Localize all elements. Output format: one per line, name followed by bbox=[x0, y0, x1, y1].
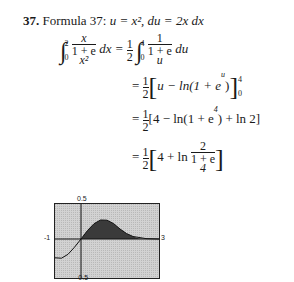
equation-line-3: = 12[4 − ln(1 + e4) + ln 2] bbox=[132, 108, 260, 133]
equation-line-4: = 12[4 + ln 21 + e4] bbox=[132, 140, 224, 177]
y-max-label: 0.5 bbox=[77, 195, 87, 202]
equation-line-1: ∫20 x1 + ex² dx = 12 ∫40 11 + eu du bbox=[60, 32, 188, 69]
integrand-fraction: x1 + ex² bbox=[72, 32, 96, 69]
x-max-label: 3 bbox=[161, 234, 165, 241]
formula-label: Formula 37: bbox=[43, 13, 107, 28]
problem-header: 37. Formula 37: u = x², du = 2x dx bbox=[23, 13, 204, 29]
y-min-label: -0.5 bbox=[76, 274, 88, 281]
graph-plot bbox=[55, 204, 159, 278]
equation-line-2: = 12[u − ln(1 + eu)]40 bbox=[132, 73, 242, 101]
substitution: u = x², du = 2x dx bbox=[110, 13, 204, 28]
problem-number: 37. bbox=[23, 13, 39, 28]
x-min-label: -1 bbox=[44, 234, 50, 241]
graph bbox=[54, 203, 160, 279]
